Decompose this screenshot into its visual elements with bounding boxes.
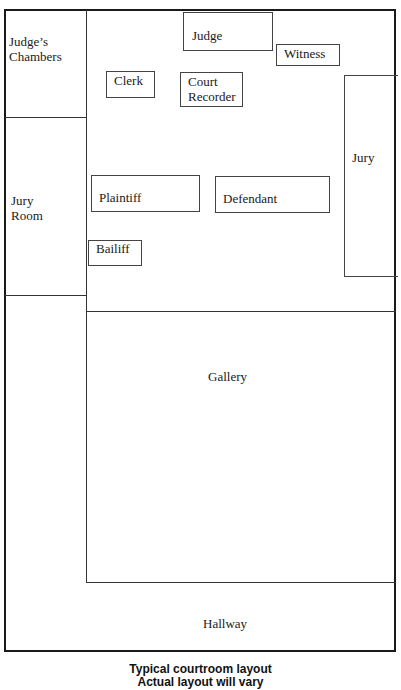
court-recorder-label: Court Recorder	[188, 74, 236, 104]
judges-chambers-label: Judge’s Chambers	[9, 34, 62, 64]
court-recorder-label-line2: Recorder	[188, 89, 236, 104]
jury-room-label: Jury Room	[11, 193, 43, 223]
jury-label: Jury	[352, 150, 374, 165]
hallway-label: Hallway	[203, 616, 247, 631]
jury-room-divider	[5, 295, 86, 296]
court-recorder-label-line1: Court	[188, 74, 236, 89]
judges-chambers-label-line1: Judge’s	[9, 34, 62, 49]
plaintiff-label: Plaintiff	[99, 190, 141, 205]
bailiff-label: Bailiff	[96, 241, 130, 256]
caption-line2: Actual layout will vary	[0, 676, 401, 689]
defendant-label: Defendant	[223, 191, 277, 206]
chambers-divider	[5, 117, 86, 118]
judge-label: Judge	[192, 28, 222, 43]
side-rooms-divider	[86, 10, 87, 583]
jury-room-label-line2: Room	[11, 208, 43, 223]
gallery-bottom-edge	[86, 582, 396, 583]
clerk-label: Clerk	[114, 73, 143, 88]
bar-divider	[86, 311, 396, 312]
judges-chambers-label-line2: Chambers	[9, 49, 62, 64]
jury-box	[344, 75, 398, 277]
jury-room-label-line1: Jury	[11, 193, 43, 208]
gallery-label: Gallery	[208, 369, 247, 384]
witness-label: Witness	[284, 46, 325, 61]
